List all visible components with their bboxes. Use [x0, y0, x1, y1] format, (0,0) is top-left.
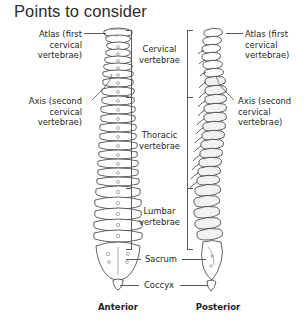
caption-anterior: Anterior	[85, 302, 151, 312]
atlas-leader-line-left	[84, 33, 106, 34]
bracket-right-tick-thoracic	[187, 188, 193, 189]
label-atlas-left-line1: Atlas (first	[39, 29, 82, 39]
label-cervical-line2: vertebrae	[139, 55, 180, 65]
spine-diagram-figure: Points to consider	[0, 0, 304, 325]
bracket-left-tick-top	[126, 30, 132, 31]
label-thoracic-line1: Thoracic	[142, 130, 178, 140]
bracket-right-tick-cervical	[187, 97, 193, 98]
label-atlas-left-line2: cervical	[49, 40, 82, 50]
label-axis-left-line2: cervical	[49, 107, 82, 117]
anterior-spine-illustration	[94, 28, 143, 290]
bracket-right-tick-top	[187, 30, 193, 31]
label-thoracic-vertebrae: Thoracic vertebrae	[136, 130, 183, 151]
label-axis-left-line3: vertebrae)	[38, 117, 82, 127]
bracket-left-tick-thoracic	[126, 188, 132, 189]
coccyx-leader-line-right	[180, 285, 208, 286]
label-cervical-vertebrae: Cervical vertebrae	[136, 44, 183, 65]
label-lumbar-line1: Lumbar	[144, 206, 176, 216]
bracket-left-tick-lumbar	[126, 249, 132, 250]
bracket-left-tick-cervical	[126, 97, 132, 98]
bracket-right-tick-lumbar	[187, 249, 193, 250]
label-axis-left-line1: Axis (second	[29, 96, 82, 106]
label-axis-left: Axis (second cervical vertebrae)	[4, 96, 82, 128]
lateral-spine-illustration	[190, 28, 227, 291]
label-axis-right-line3: vertebrae)	[238, 117, 282, 127]
bracket-left-spine	[131, 30, 132, 250]
label-sacrum: Sacrum	[141, 254, 181, 265]
label-lumbar-vertebrae: Lumbar vertebrae	[136, 206, 183, 227]
label-axis-right-line2: cervical	[238, 107, 271, 117]
caption-posterior: Posterior	[185, 302, 251, 312]
label-atlas-left-line3: vertebrae)	[38, 50, 82, 60]
label-thoracic-line2: vertebrae	[139, 141, 180, 151]
sacrum-leader-line-left	[126, 259, 141, 260]
label-lumbar-line2: vertebrae	[139, 217, 180, 227]
atlas-leader-line-right	[226, 33, 243, 34]
axis-leader-line-right	[216, 76, 234, 100]
label-atlas-left: Atlas (first cervical vertebrae)	[10, 29, 82, 61]
label-coccyx: Coccyx	[139, 280, 179, 291]
label-cervical-line1: Cervical	[143, 44, 177, 54]
bracket-right-spine	[187, 30, 188, 250]
label-atlas-right: Atlas (first cervical vertebrae)	[245, 29, 304, 61]
label-axis-right-line1: Axis (second	[238, 96, 291, 106]
sacrum-leader-line-right	[182, 259, 206, 260]
axis-leader-line-left	[92, 74, 112, 100]
label-atlas-right-line2: cervical	[245, 40, 278, 50]
coccyx-leader-line-left	[120, 285, 139, 286]
label-atlas-right-line3: vertebrae)	[245, 50, 289, 60]
label-axis-right: Axis (second cervical vertebrae)	[238, 96, 304, 128]
label-atlas-right-line1: Atlas (first	[245, 29, 288, 39]
page-title: Points to consider	[14, 2, 147, 21]
